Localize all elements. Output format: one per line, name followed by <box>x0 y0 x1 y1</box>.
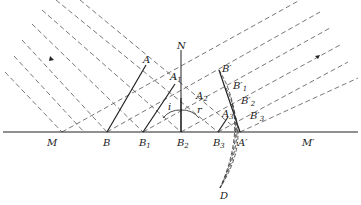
label-B1: B1 <box>138 137 151 150</box>
label-B: B <box>102 137 110 148</box>
reflected-rays <box>62 0 358 132</box>
arrow-icon <box>49 56 54 61</box>
label-angle-i: i <box>168 101 171 112</box>
label-B2-prime: B′2 <box>240 95 256 108</box>
label-A: A <box>142 54 150 65</box>
label-B-prime: B′ <box>221 63 232 74</box>
label-B3: B3 <box>212 137 225 150</box>
label-D: D <box>219 190 228 201</box>
label-angle-r: r <box>197 104 203 115</box>
label-B2: B2 <box>176 137 189 150</box>
incident-rays <box>5 0 240 132</box>
label-A2: A2 <box>195 90 208 103</box>
label-A1: A1 <box>169 71 182 84</box>
reflection-diagram: N M M′ A A1 A2 A3 B B1 B2 B3 A′ B′ B′1 B… <box>0 0 361 205</box>
label-normal: N <box>176 40 187 51</box>
label-A-prime: A′ <box>237 137 248 148</box>
label-B3-prime: B′3 <box>249 110 265 123</box>
label-mirror-right: M′ <box>301 137 315 148</box>
label-mirror-left: M <box>46 137 58 148</box>
label-B1-prime: B′1 <box>232 80 247 93</box>
diagram-svg: N M M′ A A1 A2 A3 B B1 B2 B3 A′ B′ B′1 B… <box>0 0 361 205</box>
